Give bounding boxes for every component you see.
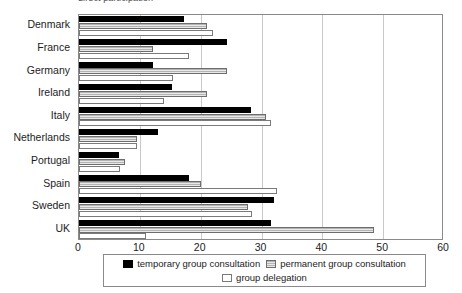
x-tick-label-50: 50: [376, 241, 388, 253]
bar-group-delegation-italy: [79, 120, 271, 126]
y-axis-category-labels: DenmarkFranceGermanyIrelandItalyNetherla…: [0, 14, 74, 240]
bar-temporary-group-consultation-netherlands: [79, 129, 158, 135]
y-label-netherlands: Netherlands: [0, 131, 70, 143]
bar-group-delegation-netherlands: [79, 143, 137, 149]
legend-item-group-delegation: group delegation: [222, 272, 307, 283]
chart-title: direct participation: [78, 0, 153, 3]
y-label-portugal: Portugal: [0, 154, 70, 166]
x-tick-label-20: 20: [194, 241, 206, 253]
bar-permanent-group-consultation-netherlands: [79, 136, 137, 142]
legend-label-temporary-group-consultation: temporary group consultation: [137, 258, 260, 269]
bar-group-delegation-portugal: [79, 166, 120, 172]
bar-permanent-group-consultation-uk: [79, 227, 374, 233]
legend-swatch-group-delegation-icon: [222, 274, 232, 282]
bar-group-sweden: [79, 196, 442, 219]
bar-temporary-group-consultation-portugal: [79, 152, 119, 158]
x-tick-label-0: 0: [75, 241, 81, 253]
bar-temporary-group-consultation-denmark: [79, 16, 184, 22]
x-tick-label-60: 60: [437, 241, 449, 253]
bar-temporary-group-consultation-italy: [79, 107, 251, 113]
y-label-spain: Spain: [0, 177, 70, 189]
bar-group-spain: [79, 173, 442, 196]
bar-group-delegation-spain: [79, 188, 277, 194]
bar-group-portugal: [79, 151, 442, 174]
legend-item-temporary-group-consultation: temporary group consultation: [123, 258, 260, 269]
legend-row-secondary: group delegation: [104, 272, 425, 283]
legend-label-permanent-group-consultation: permanent group consultation: [280, 258, 406, 269]
bar-permanent-group-consultation-portugal: [79, 159, 125, 165]
bar-permanent-group-consultation-france: [79, 46, 153, 52]
legend-label-group-delegation: group delegation: [236, 272, 307, 283]
bar-temporary-group-consultation-uk: [79, 220, 271, 226]
bar-group-delegation-sweden: [79, 211, 252, 217]
y-label-italy: Italy: [0, 109, 70, 121]
y-label-denmark: Denmark: [0, 18, 70, 30]
x-tick-label-10: 10: [133, 241, 145, 253]
bar-group-france: [79, 38, 442, 61]
chart-legend: temporary group consultationpermanent gr…: [103, 254, 426, 287]
x-tick-label-40: 40: [315, 241, 327, 253]
bar-temporary-group-consultation-germany: [79, 62, 153, 68]
bar-temporary-group-consultation-ireland: [79, 84, 172, 90]
bar-group-germany: [79, 60, 442, 83]
plot-area: [78, 14, 443, 240]
x-tick-label-30: 30: [255, 241, 267, 253]
bar-group-ireland: [79, 83, 442, 106]
bar-permanent-group-consultation-italy: [79, 114, 266, 120]
legend-swatch-permanent-group-consultation-icon: [266, 260, 276, 268]
legend-swatch-temporary-group-consultation-icon: [123, 260, 133, 268]
bar-permanent-group-consultation-denmark: [79, 23, 207, 29]
bar-permanent-group-consultation-ireland: [79, 91, 207, 97]
legend-row-primary: temporary group consultationpermanent gr…: [104, 258, 425, 269]
y-label-uk: UK: [0, 222, 70, 234]
y-label-ireland: Ireland: [0, 86, 70, 98]
bar-group-delegation-uk: [79, 233, 146, 239]
bar-group-denmark: [79, 15, 442, 38]
bar-group-delegation-ireland: [79, 98, 164, 104]
bar-group-uk: [79, 218, 442, 240]
y-label-sweden: Sweden: [0, 199, 70, 211]
bar-group-delegation-germany: [79, 75, 173, 81]
y-label-france: France: [0, 41, 70, 53]
bar-group-netherlands: [79, 128, 442, 151]
bar-permanent-group-consultation-sweden: [79, 204, 248, 210]
legend-item-permanent-group-consultation: permanent group consultation: [266, 258, 406, 269]
bar-temporary-group-consultation-france: [79, 39, 227, 45]
bar-group-italy: [79, 105, 442, 128]
bar-chart: direct participation DenmarkFranceGerman…: [0, 0, 462, 293]
bar-temporary-group-consultation-sweden: [79, 197, 274, 203]
bar-permanent-group-consultation-germany: [79, 68, 227, 74]
bar-temporary-group-consultation-spain: [79, 175, 189, 181]
bar-permanent-group-consultation-spain: [79, 181, 201, 187]
bar-group-delegation-france: [79, 53, 189, 59]
bar-group-delegation-denmark: [79, 30, 213, 36]
y-label-germany: Germany: [0, 64, 70, 76]
